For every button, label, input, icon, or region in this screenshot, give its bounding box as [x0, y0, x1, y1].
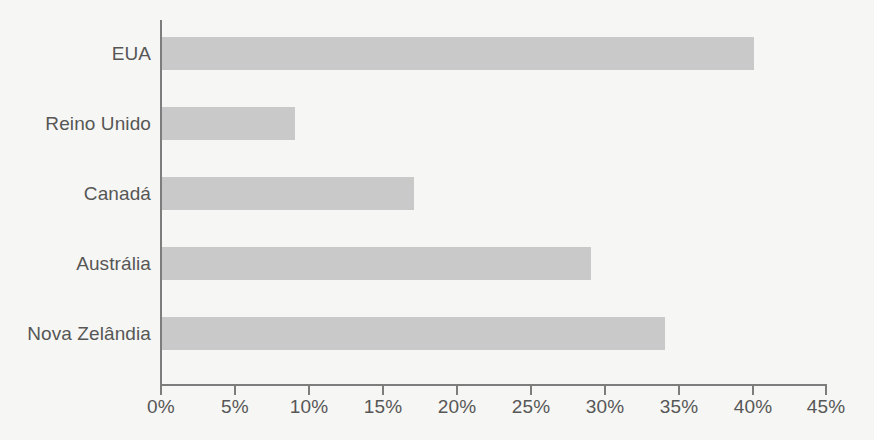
x-tick-label-15: 15% — [348, 396, 418, 418]
x-tick-label-25: 25% — [496, 396, 566, 418]
bar-chart: EUA Reino Unido Canadá Austrália Nova Ze… — [0, 0, 874, 440]
x-axis-line — [160, 384, 827, 386]
y-axis-label-australia: Austrália — [0, 253, 151, 275]
bar-eua — [162, 37, 754, 70]
y-axis-label-eua: EUA — [0, 43, 151, 65]
y-axis-label-nova-zelandia: Nova Zelândia — [0, 323, 151, 345]
x-tick-label-5: 5% — [200, 396, 270, 418]
y-axis-label-canada: Canadá — [0, 183, 151, 205]
x-tick-0 — [160, 386, 162, 395]
x-tick-10 — [308, 386, 310, 395]
x-tick-label-35: 35% — [644, 396, 714, 418]
x-tick-label-10: 10% — [274, 396, 344, 418]
y-axis-label-reino-unido: Reino Unido — [0, 113, 151, 135]
x-tick-20 — [456, 386, 458, 395]
x-tick-label-20: 20% — [422, 396, 492, 418]
x-tick-label-40: 40% — [718, 396, 788, 418]
x-tick-label-0: 0% — [126, 396, 196, 418]
x-tick-label-45: 45% — [791, 396, 861, 418]
x-tick-label-30: 30% — [570, 396, 640, 418]
bar-canada — [162, 177, 414, 210]
x-tick-45 — [825, 386, 827, 395]
x-tick-15 — [382, 386, 384, 395]
x-tick-30 — [604, 386, 606, 395]
x-tick-35 — [678, 386, 680, 395]
x-tick-25 — [530, 386, 532, 395]
bar-nova-zelandia — [162, 317, 665, 350]
x-tick-40 — [752, 386, 754, 395]
bar-australia — [162, 247, 591, 280]
bar-reino-unido — [162, 107, 295, 140]
y-axis-line — [160, 20, 162, 385]
x-tick-5 — [234, 386, 236, 395]
